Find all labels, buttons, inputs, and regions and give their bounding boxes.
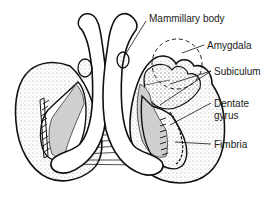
label-fimbria: Fimbria [214,139,247,150]
label-dentate: Dentate [214,98,249,109]
label-gyrus: gyrus [214,110,238,121]
label-amygdala: Amygdala [207,40,251,51]
label-subiculum: Subiculum [214,66,261,77]
label-mammillary-body: Mammillary body [149,13,225,24]
